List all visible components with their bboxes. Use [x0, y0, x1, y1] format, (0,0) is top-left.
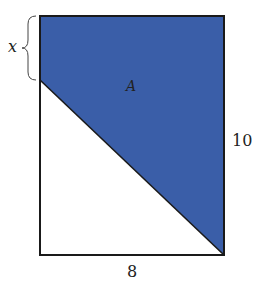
diagram: x A 10 8 [0, 0, 264, 289]
shaded-region-a [40, 16, 224, 255]
width-label: 8 [127, 262, 137, 281]
height-label: 10 [232, 131, 252, 150]
brace-icon [22, 16, 36, 80]
region-label-a: A [124, 78, 136, 94]
variable-label-x: x [8, 37, 17, 56]
